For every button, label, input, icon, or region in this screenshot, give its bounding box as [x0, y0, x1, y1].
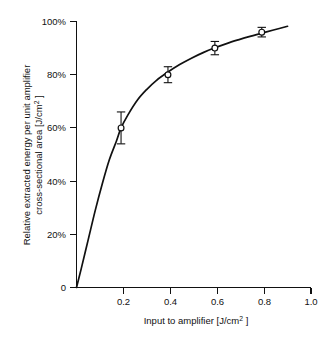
x-tick-label-0-8: 0.8 [258, 296, 271, 307]
x-tick-label-0-2: 0.2 [117, 296, 130, 307]
data-point-marker [118, 125, 124, 131]
x-axis-title: Input to amplifier [J/cm2 ] [144, 315, 249, 327]
data-point-marker [259, 29, 265, 35]
x-tick-label-0-4: 0.4 [164, 296, 177, 307]
x-tick-marks [124, 288, 312, 295]
x-tick-label-1-0: 1.0 [304, 296, 317, 307]
y-tick-label-100: 100% [42, 16, 67, 27]
data-point-marker [165, 72, 171, 78]
y-axis-title-tail: ] [33, 95, 44, 100]
y-tick-label-40: 40% [47, 176, 67, 187]
y-axis-title-line1: Relative extracted energy per unit ampli… [21, 65, 32, 246]
data-point-with-errorbar [258, 27, 266, 37]
chart-figure: 100% 80% 60% 40% 20% 0 0.2 0.4 0.6 0.8 1… [0, 0, 330, 338]
y-axis-title-line2-main: cross-sectional area [J/cm [33, 104, 44, 214]
data-points-group [117, 27, 266, 144]
y-axis-title: Relative extracted energy per unit ampli… [21, 65, 44, 246]
y-tick-labels: 100% 80% 60% 40% 20% 0 [42, 16, 67, 293]
y-tick-label-80: 80% [47, 69, 67, 80]
y-tick-marks [70, 22, 77, 288]
y-axis-title-line2: cross-sectional area [J/cm2 ] [33, 95, 45, 214]
data-point-with-errorbar [211, 41, 219, 54]
x-tick-label-0-6: 0.6 [211, 296, 224, 307]
data-curve [77, 26, 288, 287]
y-tick-label-20: 20% [47, 229, 67, 240]
saturation-curve-chart: 100% 80% 60% 40% 20% 0 0.2 0.4 0.6 0.8 1… [0, 0, 330, 338]
y-tick-label-60: 60% [47, 122, 67, 133]
data-point-marker [212, 45, 218, 51]
x-axis-title-main: Input to amplifier [J/cm [144, 315, 240, 326]
data-point-with-errorbar [117, 112, 125, 144]
y-tick-label-0: 0 [61, 282, 66, 293]
x-axis-title-tail: ] [243, 315, 248, 326]
x-tick-labels: 0.2 0.4 0.6 0.8 1.0 [117, 296, 318, 307]
